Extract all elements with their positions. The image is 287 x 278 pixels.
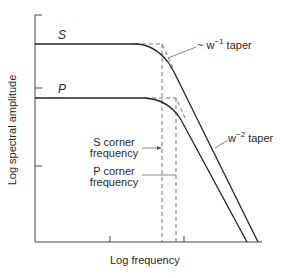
taper2-label: w−2 taper	[228, 133, 273, 144]
spectrum-curves	[35, 44, 258, 242]
s-corner-arrow-icon	[157, 146, 162, 150]
s-corner-frequency-label: S corner frequency	[88, 137, 140, 159]
y-axis-label: Log spectral amplitude	[6, 70, 18, 190]
p-curve-label: P	[58, 84, 66, 95]
taper1-label: ~ w−1 taper	[197, 40, 252, 51]
x-axis-label: Log frequency	[110, 255, 180, 266]
taper2-leader	[215, 140, 228, 148]
s-curve-label: S	[58, 30, 66, 41]
asymptote-lines	[135, 44, 186, 242]
taper1-leader	[168, 47, 196, 58]
p-spectrum-curve	[35, 98, 247, 242]
s-asymptote	[135, 44, 173, 68]
s-spectrum-curve	[35, 44, 258, 242]
p-corner-frequency-label: P corner frequency	[88, 166, 140, 188]
